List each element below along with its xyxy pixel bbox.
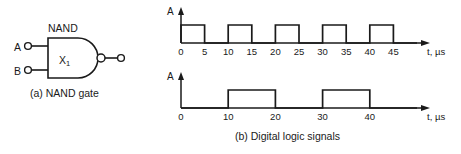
bottom-chart-tick-labels: 0 10 20 30 40 (178, 111, 375, 122)
bottom-tick-10: 10 (223, 111, 234, 122)
top-tick-10: 10 (223, 46, 234, 57)
top-tick-0: 0 (178, 46, 183, 57)
top-chart-signal-trace (181, 25, 417, 43)
bottom-tick-20: 20 (270, 111, 281, 122)
gate-designator-letter: X (59, 54, 66, 66)
gate-designator: X1 (59, 55, 70, 68)
top-chart (178, 7, 430, 46)
bottom-tick-0: 0 (178, 111, 183, 122)
top-tick-45: 45 (388, 46, 399, 57)
caption-part-a: (a) NAND gate (30, 88, 99, 99)
input-b-label: B (14, 66, 21, 77)
input-a-label: A (14, 42, 21, 53)
gate-body (48, 38, 98, 78)
output-terminal-icon (118, 55, 125, 62)
bottom-chart-y-arrow-icon (178, 72, 184, 80)
top-tick-15: 15 (247, 46, 258, 57)
top-tick-40: 40 (365, 46, 376, 57)
top-tick-30: 30 (317, 46, 328, 57)
input-b-terminal-icon (25, 67, 32, 74)
caption-part-b: (b) Digital logic signals (235, 131, 340, 142)
top-chart-y-arrow-icon (178, 7, 184, 15)
top-chart-y-axis-label: A (167, 6, 174, 17)
bottom-chart-signal-trace (181, 90, 417, 108)
waveforms-panel: A 0 5 10 15 20 25 30 35 40 45 t, µs (155, 0, 461, 154)
nand-gate-panel: NAND A B X1 (a) NAND gate (0, 0, 155, 154)
top-tick-20: 20 (270, 46, 281, 57)
top-chart-tick-labels: 0 5 10 15 20 25 30 35 40 45 (178, 46, 398, 57)
input-a-terminal-icon (25, 43, 32, 50)
bottom-chart (178, 72, 430, 111)
top-tick-5: 5 (202, 46, 207, 57)
top-tick-25: 25 (294, 46, 305, 57)
bottom-tick-40: 40 (365, 111, 376, 122)
gate-type-label: NAND (48, 23, 78, 34)
figure-digital-logic: NAND A B X1 (a) NAND gate A 0 (0, 0, 461, 154)
inversion-bubble-icon (97, 54, 105, 62)
gate-designator-subscript: 1 (66, 59, 70, 68)
bottom-chart-x-axis-label: t, µs (427, 111, 445, 122)
bottom-chart-y-axis-label: A (167, 71, 174, 82)
top-tick-35: 35 (341, 46, 352, 57)
top-chart-x-axis-label: t, µs (427, 46, 445, 57)
bottom-tick-30: 30 (317, 111, 328, 122)
